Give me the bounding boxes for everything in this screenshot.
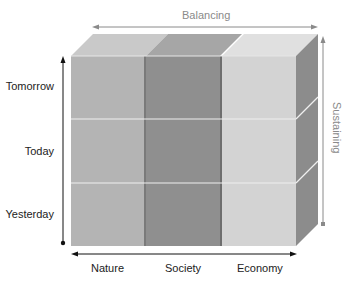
column-label-nature: Nature — [91, 262, 124, 274]
sustaining-arrow-origin — [321, 222, 325, 226]
balancing-label: Balancing — [182, 9, 230, 21]
cube-diagram — [0, 0, 348, 284]
time-axis-arrowhead — [61, 56, 66, 63]
balancing-arrow-right — [311, 25, 318, 30]
front-column-society — [146, 56, 220, 246]
column-label-society: Society — [165, 262, 201, 274]
column-label-economy: Economy — [237, 262, 283, 274]
column-gap-nature-right — [144, 56, 146, 246]
balancing-arrow-left — [92, 25, 99, 30]
side-face-economy — [296, 34, 318, 246]
sustaining-label: Sustaining — [331, 102, 343, 153]
row-label-today: Today — [25, 145, 54, 157]
sustaining-arrow-head — [321, 36, 326, 43]
front-column-nature — [71, 56, 144, 246]
dimension-axis-arrow-left — [71, 252, 78, 257]
dimension-axis-arrow-right — [290, 252, 297, 257]
row-label-tomorrow: Tomorrow — [6, 80, 54, 92]
column-gap-society-right — [220, 56, 222, 246]
front-column-economy — [222, 56, 296, 246]
row-label-yesterday: Yesterday — [5, 208, 54, 220]
time-axis-origin-dot — [61, 241, 65, 245]
